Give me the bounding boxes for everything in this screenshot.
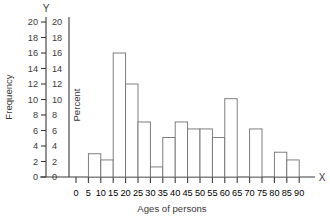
- histogram-chart: Y X 02468101214161820 02468101214161820 …: [0, 0, 330, 218]
- x-tick-label: 60: [220, 188, 230, 198]
- percent-tick-label: 0: [52, 172, 57, 182]
- histogram-bar: [126, 84, 138, 177]
- x-axis-title: Ages of persons: [137, 203, 207, 214]
- frequency-tick-label: 2: [33, 157, 38, 167]
- x-tick-label: 70: [244, 188, 254, 198]
- chart-canvas: Y X 02468101214161820 02468101214161820 …: [0, 0, 330, 218]
- x-tick-label: 45: [182, 188, 192, 198]
- x-tick-label: 75: [257, 188, 267, 198]
- percent-tick-label: 6: [52, 126, 57, 136]
- frequency-tick-label: 14: [28, 64, 38, 74]
- histogram-bar: [212, 137, 224, 177]
- x-tick-label: 30: [145, 188, 155, 198]
- histogram-bar: [101, 160, 113, 177]
- x-tick-label: 55: [207, 188, 217, 198]
- frequency-tick-label: 16: [28, 48, 38, 58]
- x-tick-label: 5: [86, 188, 91, 198]
- x-tick-label: 90: [294, 188, 304, 198]
- histogram-bar: [175, 122, 187, 177]
- x-tick-label: 15: [108, 188, 118, 198]
- percent-tick-label: 14: [52, 64, 62, 74]
- histogram-bar: [274, 152, 286, 177]
- x-tick-label: 10: [96, 188, 106, 198]
- percent-tick-label: 10: [52, 95, 62, 105]
- frequency-tick-label: 8: [33, 110, 38, 120]
- histogram-bar: [138, 122, 150, 177]
- percent-tick-label: 4: [52, 141, 57, 151]
- frequency-tick-label: 4: [33, 141, 38, 151]
- histogram-bar: [250, 129, 262, 177]
- x-tick-label: 0: [73, 188, 78, 198]
- histogram-bar: [225, 99, 237, 177]
- x-tick-label: 25: [133, 188, 143, 198]
- x-tick-label: 50: [195, 188, 205, 198]
- histogram-bar: [287, 160, 299, 177]
- histogram-bar: [163, 137, 175, 177]
- x-tick-label: 85: [282, 188, 292, 198]
- percent-tick-label: 16: [52, 48, 62, 58]
- percent-tick-label: 20: [52, 17, 62, 27]
- percent-tick-label: 18: [52, 33, 62, 43]
- y-axis-title: Frequency: [3, 74, 14, 120]
- x-tick-label: 35: [158, 188, 168, 198]
- percent-tick-label: 2: [52, 157, 57, 167]
- percent-tick-label: 12: [52, 79, 62, 89]
- x-tick-label: 20: [120, 188, 130, 198]
- histogram-bar: [113, 53, 125, 177]
- frequency-tick-label: 10: [28, 95, 38, 105]
- y-axis-marker: Y: [43, 3, 50, 14]
- histogram-bar: [88, 154, 100, 177]
- histogram-bar: [188, 129, 200, 177]
- chart-background: [0, 0, 330, 218]
- frequency-tick-label: 6: [33, 126, 38, 136]
- frequency-tick-label: 20: [28, 17, 38, 27]
- frequency-tick-label: 0: [33, 172, 38, 182]
- percent-axis-title: Percent: [71, 88, 82, 121]
- percent-tick-label: 8: [52, 110, 57, 120]
- histogram-bar: [150, 167, 162, 177]
- x-tick-label: 80: [269, 188, 279, 198]
- x-tick-label: 40: [170, 188, 180, 198]
- x-tick-label: 65: [232, 188, 242, 198]
- histogram-bar: [200, 129, 212, 177]
- x-axis-marker: X: [319, 172, 326, 183]
- frequency-tick-label: 18: [28, 33, 38, 43]
- frequency-tick-label: 12: [28, 79, 38, 89]
